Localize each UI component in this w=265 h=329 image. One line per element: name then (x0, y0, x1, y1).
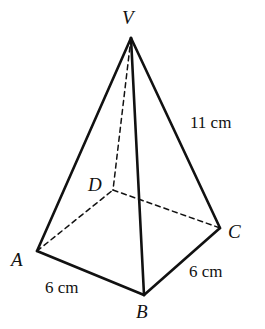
edge-VC-solid (131, 38, 220, 228)
vertex-label-A: A (11, 250, 23, 269)
edge-AD-dashed (37, 190, 113, 251)
measurement-label-base-edge-bc: 6 cm (189, 263, 223, 280)
vertex-label-D: D (88, 175, 102, 194)
edge-VA-solid (37, 38, 131, 251)
vertex-label-B: B (136, 302, 148, 321)
measurement-label-base-edge-ab: 6 cm (45, 279, 79, 296)
edge-VB-solid (131, 38, 144, 295)
pyramid-diagram: V D A B C 11 cm 6 cm 6 cm (0, 0, 265, 329)
vertex-label-C: C (228, 222, 241, 241)
measurement-label-slant-edge-vc: 11 cm (190, 114, 231, 131)
vertex-label-V: V (122, 8, 134, 27)
pyramid-drawing-canvas (0, 0, 265, 329)
